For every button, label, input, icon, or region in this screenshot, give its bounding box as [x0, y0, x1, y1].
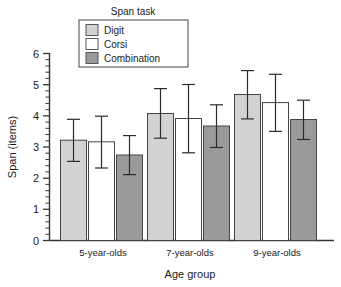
legend-swatch-corsi	[86, 39, 98, 50]
y-tick-label-2: 2	[33, 172, 39, 184]
x-tick-label-7-year-olds: 7-year-olds	[166, 247, 214, 258]
legend-swatch-digit	[86, 25, 98, 36]
legend-item-corsi[interactable]: Corsi	[86, 39, 127, 51]
y-tick-label-5: 5	[33, 79, 39, 91]
legend-label-corsi: Corsi	[104, 39, 127, 50]
chart-figure: Span task Digit Corsi Combination	[0, 0, 341, 287]
y-tick-label-1: 1	[33, 203, 39, 215]
legend-label-digit: Digit	[104, 25, 124, 36]
y-tick-label-6: 6	[33, 48, 39, 60]
x-tick-label-9-year-olds: 9-year-olds	[253, 247, 301, 258]
legend-label-combination: Combination	[104, 53, 160, 64]
x-tick-label-5-year-olds: 5-year-olds	[79, 247, 127, 258]
legend-swatch-combination	[86, 53, 98, 64]
y-tick-label-4: 4	[33, 110, 39, 122]
span-task-bar-chart: Span task Digit Corsi Combination	[0, 0, 341, 287]
y-axis-title: Span (items)	[6, 116, 18, 178]
y-tick-label-0: 0	[33, 235, 39, 247]
x-axis-title: Age group	[165, 268, 216, 280]
legend-item-combination[interactable]: Combination	[86, 53, 160, 65]
legend-item-digit[interactable]: Digit	[86, 25, 124, 37]
y-tick-label-3: 3	[33, 141, 39, 153]
legend-title: Span task	[111, 6, 156, 17]
